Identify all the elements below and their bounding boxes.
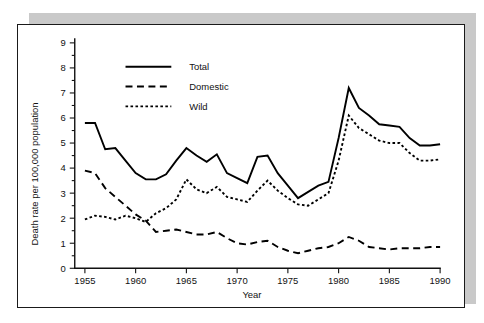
legend-label-domestic: Domestic [189,81,229,92]
legend-label-total: Total [189,61,209,72]
x-tick-label: 1985 [379,275,400,286]
y-tick-label: 9 [61,37,66,48]
y-tick-label: 4 [61,162,66,173]
series-line-total [85,88,440,198]
y-tick-label: 2 [61,213,66,224]
x-tick-label: 1990 [430,275,451,286]
x-axis-title: Year [242,289,261,300]
line-chart: 0123456789 19551960196519701975198019851… [18,25,464,307]
figure-panel: 0123456789 19551960196519701975198019851… [17,24,465,308]
y-tick-label: 7 [61,87,66,98]
legend-label-wild: Wild [189,101,207,112]
y-tick-label: 0 [61,263,66,274]
x-axis: 19551960196519701975198019851990 [74,268,450,286]
x-tick-label: 1960 [125,275,146,286]
x-tick-label: 1975 [277,275,298,286]
series-line-wild [85,115,440,221]
chart-canvas: 0123456789 19551960196519701975198019851… [18,25,464,307]
chart-legend: TotalDomesticWild [126,61,229,112]
y-tick-label: 8 [61,62,66,73]
scanned-page: 0123456789 19551960196519701975198019851… [0,0,484,323]
x-tick-label: 1980 [328,275,349,286]
x-tick-label: 1970 [227,275,248,286]
y-tick-label: 3 [61,188,66,199]
y-tick-label: 5 [61,137,66,148]
x-tick-label: 1955 [74,275,95,286]
y-axis: 0123456789 [61,37,75,273]
series-lines [85,88,440,253]
y-tick-label: 1 [61,238,66,249]
y-tick-label: 6 [61,112,66,123]
series-line-domestic [85,171,440,254]
x-tick-label: 1965 [176,275,197,286]
y-axis-title: Death rate per 100,000 population [29,102,40,245]
